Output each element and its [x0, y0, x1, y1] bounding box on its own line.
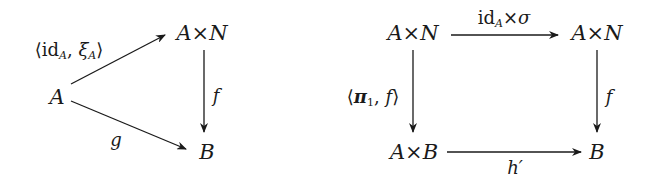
- node-a: A: [49, 85, 64, 109]
- node-b: B: [199, 140, 214, 164]
- label-f-right: f: [606, 86, 613, 107]
- angle-close: ⟩: [392, 86, 399, 107]
- arrow-a-to-b-g: [71, 101, 186, 149]
- angle-open: ⟨: [35, 39, 42, 60]
- node-bottom-left-axb: A×B: [390, 140, 438, 164]
- label-id-xi: ⟨idA, ξA⟩: [35, 39, 104, 62]
- separator: ,: [67, 39, 78, 60]
- node-bottom-right-b: B: [589, 140, 604, 164]
- angle-close: ⟩: [96, 39, 103, 60]
- label-g: g: [110, 129, 122, 150]
- xi-text: ξ: [78, 39, 88, 60]
- separator: ,: [374, 86, 385, 107]
- xi-subscript: A: [88, 49, 96, 62]
- node-top-right-axn: A×N: [571, 21, 622, 45]
- id-text: id: [42, 39, 59, 60]
- sigma-text: σ: [518, 7, 530, 28]
- times-symbol: ×: [503, 7, 518, 28]
- label-id-times-sigma: idA×σ: [478, 7, 531, 30]
- label-pi-f: ⟨π1, f⟩: [347, 86, 399, 109]
- commutative-diagrams: A A×N B ⟨idA, ξA⟩ f g A×N A×N A×B B idA×…: [0, 0, 655, 179]
- angle-open: ⟨: [347, 86, 354, 107]
- node-top-left-axn: A×N: [387, 21, 438, 45]
- label-f-left: f: [213, 85, 220, 106]
- pi-text: π: [354, 86, 367, 107]
- label-h-prime: h′: [507, 157, 523, 178]
- node-axn: A×N: [176, 21, 227, 45]
- id-text: id: [478, 7, 495, 28]
- arrows-layer: [0, 0, 655, 179]
